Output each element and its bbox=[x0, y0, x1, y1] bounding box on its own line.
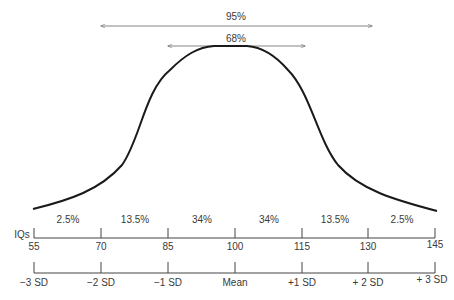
sd-tick-label: −1 SD bbox=[154, 277, 182, 288]
bell-curve-diagram bbox=[0, 0, 454, 300]
iq-tick-label: 130 bbox=[360, 241, 377, 252]
sd-tick-label: +1 SD bbox=[288, 277, 316, 288]
bell-curve bbox=[33, 46, 437, 211]
segment-pct-label: 2.5% bbox=[391, 214, 414, 225]
sd-tick-label: + 2 SD bbox=[353, 277, 384, 288]
segment-pct-label: 13.5% bbox=[321, 214, 349, 225]
sd-axis bbox=[34, 262, 435, 273]
iq-tick-label: 145 bbox=[427, 239, 444, 250]
sd-tick-label: + 3 SD bbox=[417, 274, 448, 285]
iq-tick-label: 85 bbox=[162, 241, 173, 252]
segment-pct-label: 13.5% bbox=[121, 214, 149, 225]
iq-axis bbox=[34, 228, 435, 238]
iq-tick-label: 70 bbox=[95, 241, 106, 252]
segment-pct-label: 34% bbox=[192, 214, 212, 225]
range-95-label: 95% bbox=[226, 11, 246, 22]
sd-tick-label: Mean bbox=[222, 277, 247, 288]
segment-pct-label: 34% bbox=[259, 214, 279, 225]
sd-tick-label: −3 SD bbox=[20, 277, 48, 288]
sd-tick-label: −2 SD bbox=[87, 277, 115, 288]
segment-pct-label: 2.5% bbox=[57, 214, 80, 225]
iq-axis-label: IQs bbox=[14, 229, 30, 240]
iq-tick-label: 100 bbox=[227, 241, 244, 252]
iq-tick-label: 115 bbox=[294, 241, 310, 252]
range-68-label: 68% bbox=[226, 33, 246, 44]
iq-tick-label: 55 bbox=[28, 241, 39, 252]
